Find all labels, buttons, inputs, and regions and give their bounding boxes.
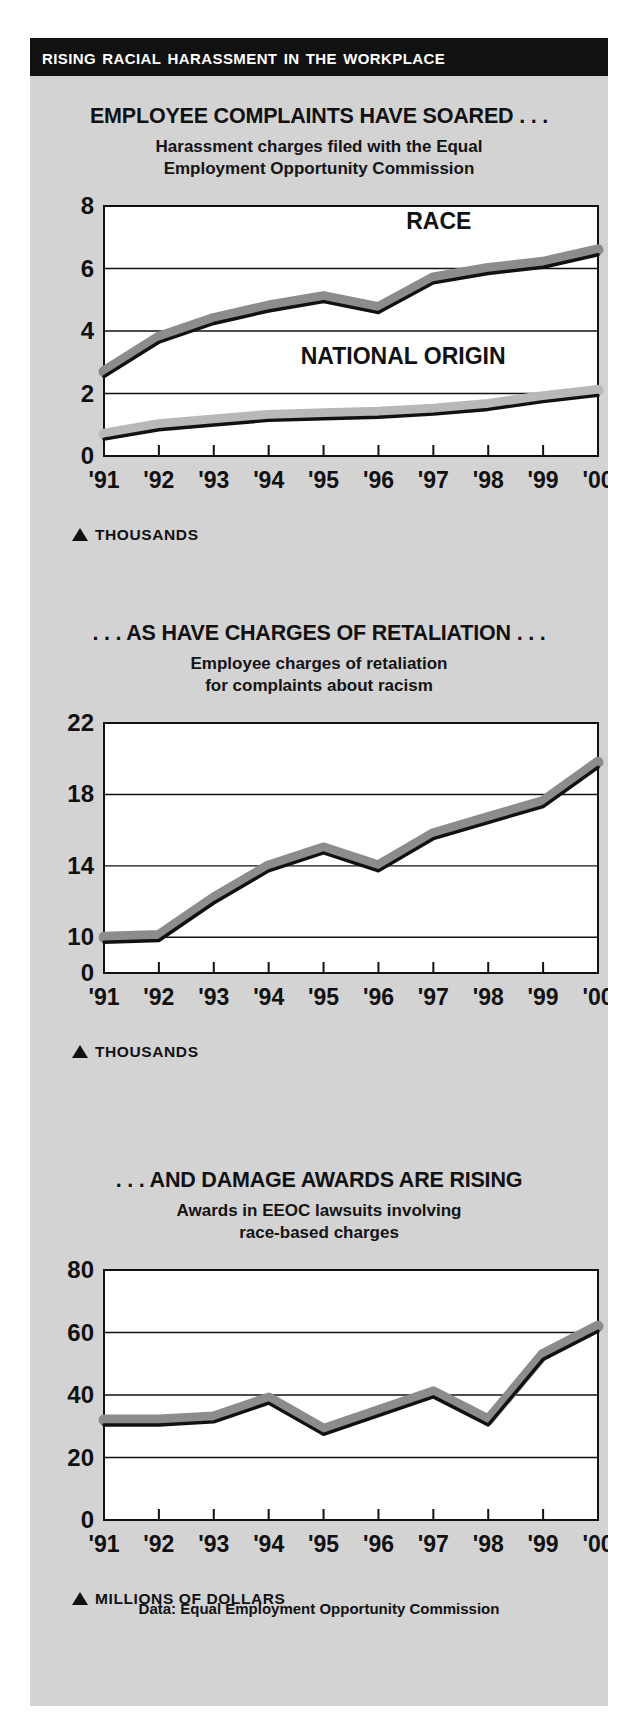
y-tick-label: 22 — [67, 711, 94, 736]
chart-subtitle-line-1: Employee charges of retaliation — [30, 653, 608, 675]
plot-background — [104, 723, 598, 973]
chart-subtitle-complaints: Harassment charges filed with the Equal … — [30, 136, 608, 180]
plot-retaliation: 010141822'91'92'93'94'95'96'97'98'99'00 — [30, 711, 608, 1041]
chart-subtitle-damages: Awards in EEOC lawsuits involving race-b… — [30, 1200, 608, 1244]
x-tick-label: '96 — [363, 1531, 394, 1557]
x-tick-label: '96 — [363, 984, 394, 1010]
x-tick-label: '98 — [473, 984, 504, 1010]
series-annotation-national-origin: NATIONAL ORIGIN — [301, 342, 506, 368]
x-tick-label: '97 — [418, 1531, 449, 1557]
y-tick-label: 2 — [81, 379, 94, 406]
x-tick-label: '00 — [582, 467, 608, 493]
plot-damages: 020406080'91'92'93'94'95'96'97'98'99'00 — [30, 1258, 608, 1588]
x-tick-label: '91 — [88, 1531, 119, 1557]
x-tick-label: '92 — [143, 984, 174, 1010]
x-tick-label: '95 — [308, 1531, 339, 1557]
chart-subtitle-line-1: Harassment charges filed with the Equal — [30, 136, 608, 158]
chart-title-retaliation: . . . AS HAVE CHARGES OF RETALIATION . .… — [30, 621, 608, 646]
x-tick-label: '95 — [308, 984, 339, 1010]
x-tick-label: '93 — [198, 467, 229, 493]
x-tick-label: '97 — [418, 467, 449, 493]
x-tick-label: '92 — [143, 467, 174, 493]
y-tick-label: 14 — [67, 851, 94, 878]
plot-complaints: 02468'91'92'93'94'95'96'97'98'99'00RACEN… — [30, 194, 608, 524]
x-tick-label: '91 — [88, 467, 119, 493]
triangle-up-icon — [72, 528, 88, 541]
unit-label-retaliation: THOUSANDS — [95, 1043, 199, 1061]
x-tick-label: '93 — [198, 1531, 229, 1557]
y-tick-label: 0 — [81, 1506, 94, 1533]
source-note: Data: Equal Employment Opportunity Commi… — [30, 1600, 608, 1617]
chart-subtitle-line-1: Awards in EEOC lawsuits involving — [30, 1200, 608, 1222]
y-tick-label: 80 — [67, 1258, 94, 1283]
y-tick-label: 10 — [67, 923, 94, 950]
x-tick-label: '93 — [198, 984, 229, 1010]
chart-section-complaints: EMPLOYEE COMPLAINTS HAVE SOARED . . . Ha… — [30, 104, 608, 544]
y-tick-label: 20 — [67, 1443, 94, 1470]
chart-title-complaints: EMPLOYEE COMPLAINTS HAVE SOARED . . . — [30, 104, 608, 129]
x-tick-label: '97 — [418, 984, 449, 1010]
x-tick-label: '91 — [88, 984, 119, 1010]
y-tick-label: 4 — [81, 317, 95, 344]
x-tick-label: '94 — [253, 1531, 284, 1557]
x-tick-label: '95 — [308, 467, 339, 493]
x-tick-label: '99 — [528, 984, 559, 1010]
header-banner: Rising Racial Harassment in the Workplac… — [30, 38, 608, 76]
y-tick-label: 0 — [81, 442, 94, 469]
chart-svg-complaints: 02468'91'92'93'94'95'96'97'98'99'00RACEN… — [30, 194, 608, 524]
x-tick-label: '92 — [143, 1531, 174, 1557]
chart-subtitle-line-2: race-based charges — [30, 1222, 608, 1244]
chart-section-retaliation: . . . AS HAVE CHARGES OF RETALIATION . .… — [30, 621, 608, 1061]
infographic-page: Rising Racial Harassment in the Workplac… — [0, 0, 639, 1736]
chart-svg-damages: 020406080'91'92'93'94'95'96'97'98'99'00 — [30, 1258, 608, 1588]
source-note-row: Data: Equal Employment Opportunity Commi… — [30, 1600, 608, 1617]
y-tick-label: 40 — [67, 1381, 94, 1408]
chart-subtitle-retaliation: Employee charges of retaliation for comp… — [30, 653, 608, 697]
unit-label-complaints: THOUSANDS — [95, 526, 199, 544]
chart-section-damages: . . . AND DAMAGE AWARDS ARE RISING Award… — [30, 1168, 608, 1608]
chart-subtitle-line-2: for complaints about racism — [30, 675, 608, 697]
x-tick-label: '99 — [528, 1531, 559, 1557]
x-tick-label: '94 — [253, 467, 284, 493]
unit-row-complaints: THOUSANDS — [72, 526, 608, 544]
page-title: Rising Racial Harassment in the Workplac… — [42, 45, 445, 69]
y-tick-label: 0 — [81, 959, 94, 986]
y-tick-label: 6 — [81, 254, 94, 281]
y-tick-label: 8 — [81, 194, 94, 219]
y-tick-label: 18 — [67, 780, 94, 807]
x-tick-label: '99 — [528, 467, 559, 493]
triangle-up-icon — [72, 1045, 88, 1058]
x-tick-label: '00 — [582, 984, 608, 1010]
x-tick-label: '98 — [473, 1531, 504, 1557]
x-tick-label: '98 — [473, 467, 504, 493]
chart-subtitle-line-2: Employment Opportunity Commission — [30, 158, 608, 180]
series-annotation-race: RACE — [406, 208, 471, 234]
chart-svg-retaliation: 010141822'91'92'93'94'95'96'97'98'99'00 — [30, 711, 608, 1041]
x-tick-label: '96 — [363, 467, 394, 493]
x-tick-label: '00 — [582, 1531, 608, 1557]
y-tick-label: 60 — [67, 1318, 94, 1345]
x-tick-label: '94 — [253, 984, 284, 1010]
unit-row-retaliation: THOUSANDS — [72, 1043, 608, 1061]
chart-title-damages: . . . AND DAMAGE AWARDS ARE RISING — [30, 1168, 608, 1193]
